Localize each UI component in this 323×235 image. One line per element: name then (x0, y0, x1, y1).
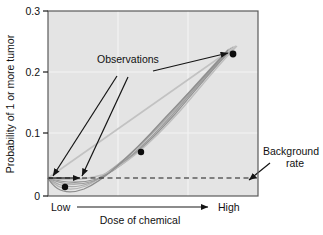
data-point-high-dose (230, 51, 237, 58)
chart-figure: Observations Background rate 0.3 0.2 0.1… (0, 0, 323, 235)
observations-annotation-label: Observations (97, 53, 159, 65)
data-point-mid-dose (138, 149, 144, 155)
background-rate-label-line1: Background (263, 145, 319, 157)
x-axis-low-label: Low (51, 201, 71, 213)
y-tick-label-0.2: 0.2 (25, 66, 40, 78)
tumor-dose-response-chart: Observations Background rate 0.3 0.2 0.1… (0, 0, 323, 235)
y-tick-label-0: 0 (34, 190, 40, 202)
y-axis-title: Probability of 1 or more tumor (4, 34, 16, 173)
y-tick-label-0.3: 0.3 (25, 5, 40, 17)
background-rate-label-line2: rate (286, 157, 304, 169)
x-axis-high-label: High (218, 201, 240, 213)
y-tick-label-0.1: 0.1 (25, 127, 40, 139)
x-axis-title: Dose of chemical (100, 214, 181, 226)
data-point-low-dose (62, 184, 68, 190)
